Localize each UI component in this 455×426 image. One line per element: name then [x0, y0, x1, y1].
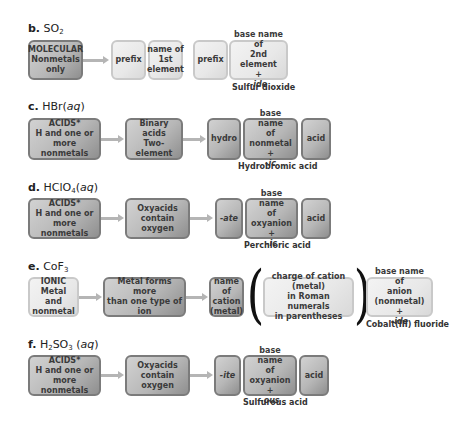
section-letter: f. — [28, 338, 36, 351]
oxyanion-base-name-box: base name of oxyanion + -ous — [243, 355, 297, 396]
example-name: Sulfur dioxide — [232, 83, 295, 92]
example-name: Sulfurous acid — [243, 398, 308, 407]
arrow-right-icon — [101, 217, 119, 220]
open-parenthesis-icon: ( — [247, 262, 264, 326]
section-f-title: f. H2SO3 (aq) — [28, 338, 99, 351]
binary-acids-box: Binary acids Two-element — [125, 118, 183, 160]
acids-category-box: ACIDS* H and one or more nonmetals — [28, 355, 101, 396]
prefix-box-1: prefix — [111, 40, 146, 80]
section-d-title: d. HClO4(aq) — [28, 181, 98, 194]
oxyanion-base-name-box: base name of oxyanion + -ic — [245, 198, 298, 239]
hydro-prefix-box: hydro — [207, 118, 241, 160]
first-element-name-box: name of 1st element — [148, 40, 183, 80]
cation-name-box: name of cation (metal) — [209, 277, 244, 317]
arrow-right-icon — [83, 59, 104, 62]
arrow-right-icon — [186, 296, 203, 299]
formula: HBr(aq) — [42, 100, 85, 113]
nonmetal-base-name-box: base name of nonmetal + -ic — [243, 118, 298, 160]
example-name: Hydrobromic acid — [238, 162, 317, 171]
roman-numeral-charge-box: charge of cation (metal) in Roman numera… — [263, 277, 354, 317]
section-letter: b. — [28, 22, 40, 35]
arrow-right-icon — [190, 374, 208, 377]
acid-word-box: acid — [301, 198, 331, 239]
section-letter: e. — [28, 260, 40, 273]
acid-word-box: acid — [299, 355, 329, 396]
ite-suffix-box: -ite — [214, 355, 241, 396]
acids-category-box: ACIDS* H and one or more nonmetals — [28, 118, 101, 160]
formula: H2SO3 (aq) — [40, 338, 99, 351]
formula: HClO4(aq) — [44, 181, 98, 194]
arrow-right-icon — [101, 374, 119, 377]
arrow-right-icon — [183, 138, 201, 141]
ionic-category-box: IONIC Metal and nonmetal — [28, 277, 79, 317]
anion-base-name-box: base name of anion (nonmetal) + -ide — [366, 277, 433, 317]
example-name: Cobalt(III) fluoride — [366, 320, 449, 329]
arrow-right-icon — [79, 296, 97, 299]
second-element-base-name-box: base name of 2nd element + -ide — [229, 40, 288, 80]
arrow-right-icon — [101, 138, 119, 141]
molecular-category-box: MOLECULAR Nonmetals only — [28, 40, 83, 80]
section-b-title: b. SO2 — [28, 22, 64, 35]
formula: SO2 — [44, 22, 64, 35]
variable-charge-metal-box: Metal forms more than one type of ion — [103, 277, 186, 317]
section-e-title: e. CoF3 — [28, 260, 68, 273]
formula: CoF3 — [43, 260, 68, 273]
section-letter: c. — [28, 100, 39, 113]
section-c-title: c. HBr(aq) — [28, 100, 85, 113]
ate-suffix-box: -ate — [215, 198, 243, 239]
section-letter: d. — [28, 181, 40, 194]
oxyacids-box: Oxyacids contain oxygen — [125, 198, 190, 239]
acid-word-box: acid — [301, 118, 331, 160]
example-name: Perchloric acid — [244, 241, 311, 250]
arrow-right-icon — [190, 217, 208, 220]
prefix-box-2: prefix — [193, 40, 228, 80]
acids-category-box: ACIDS* H and one or more nonmetals — [28, 198, 101, 239]
oxyacids-box: Oxyacids contain oxygen — [125, 355, 190, 396]
